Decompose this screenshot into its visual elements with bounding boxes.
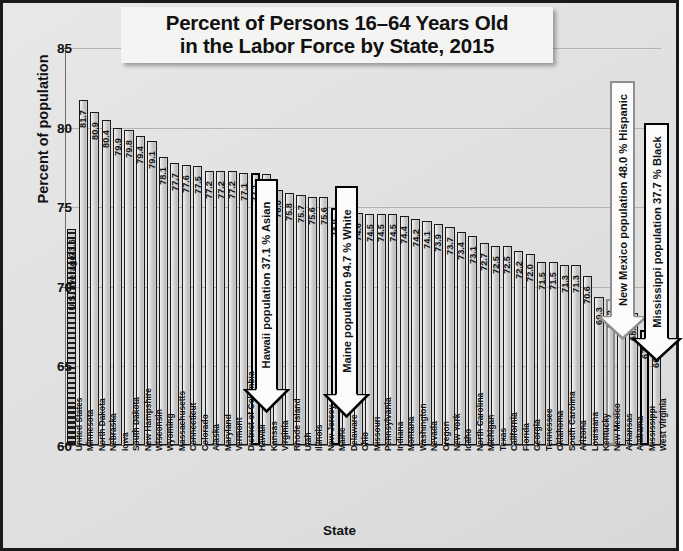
- callout-arrow-head-icon: [631, 338, 682, 362]
- x-label-ohio: Ohio: [360, 432, 370, 451]
- bar-value-label: 73.9: [433, 234, 443, 252]
- bar-montana[interactable]: 74.4: [400, 216, 409, 445]
- x-label-new-york: New York: [452, 414, 462, 451]
- x-label-california: California: [509, 412, 519, 451]
- x-label-pennsylvania: Pennsylvania: [383, 397, 393, 451]
- x-axis-category-labels: United StatesMinnesotaNorth DakotaNebras…: [65, 449, 661, 527]
- bar-rect: 73.7: [445, 227, 454, 445]
- bar-value-label: 80.9: [90, 122, 100, 140]
- x-label-minnesota: Minnesota: [85, 410, 95, 451]
- bar-value-label: 79.9: [113, 138, 123, 156]
- x-label-texas: Texas: [498, 428, 508, 451]
- x-label-utah: Utah: [303, 432, 313, 451]
- bar-nebraska[interactable]: 80.4: [102, 120, 111, 445]
- x-label-south-carolina: South Carolina: [567, 391, 577, 451]
- x-label-massachusetts: Massachusetts: [177, 391, 187, 451]
- x-label-kentucky: Kentucky: [601, 413, 611, 451]
- mississippi-callout: Mississippi population 37.7 % Black: [631, 123, 682, 362]
- bar-value-label: 75.7: [296, 205, 306, 223]
- bar-value-label: 72.2: [514, 261, 524, 279]
- bar-oregon[interactable]: 73.9: [434, 224, 443, 445]
- bar-value-label: 74.4: [399, 226, 409, 244]
- callout-body: Hawaii population 37.1 % Asian: [255, 179, 278, 389]
- callout-text: Maine population 94.7 % White: [340, 209, 352, 372]
- x-label-maryland: Maryland: [223, 414, 233, 451]
- bar-value-label: 73.1: [468, 247, 478, 265]
- bar-value-label: 72.0: [525, 264, 535, 282]
- x-label-illinois: Illinois: [314, 424, 324, 451]
- bar-north-dakota[interactable]: 80.9: [90, 112, 99, 445]
- bar-rect: 72.0: [526, 254, 535, 445]
- bar-value-label: 75.6: [307, 207, 317, 225]
- bar-value-label: 74.5: [388, 224, 398, 242]
- bar-iowa[interactable]: 79.9: [113, 128, 122, 445]
- bar-value-label: 71.3: [560, 275, 570, 293]
- x-label-kansas: Kansas: [269, 421, 279, 451]
- callout-text: Hawaii population 37.1 % Asian: [260, 202, 272, 369]
- bar-value-label: 72.5: [491, 256, 501, 274]
- bar-maryland[interactable]: 77.2: [216, 171, 225, 445]
- callout-arrow-head-icon: [323, 394, 370, 418]
- x-label-iowa: Iowa: [120, 432, 130, 451]
- x-label-mississippi: Mississippi: [647, 406, 657, 451]
- hawaii-callout: Hawaii population 37.1 % Asian: [243, 179, 290, 413]
- x-label-rhode-island: Rhode Island: [292, 398, 302, 451]
- bar-rect: 77.2: [216, 171, 225, 445]
- x-label-colorado: Colorado: [200, 414, 210, 451]
- x-label-delaware: Delaware: [349, 414, 359, 451]
- bar-value-label: 71.3: [571, 275, 581, 293]
- bar-value-label: 80.4: [101, 130, 111, 148]
- bar-georgia[interactable]: 72.0: [526, 254, 535, 445]
- chart-title-line-2: in the Labor Force by State, 2015: [127, 34, 547, 57]
- bar-rect: 80.9: [90, 112, 99, 445]
- bar-value-label: 74.2: [411, 229, 421, 247]
- bar-value-label: 72.7: [479, 253, 489, 271]
- callout-arrow-head-icon: [243, 389, 290, 413]
- x-label-indiana: Indiana: [395, 422, 405, 451]
- y-tick-label: 80: [32, 120, 72, 135]
- x-label-alabama: Alabama: [635, 416, 645, 451]
- x-label-vermont: Vermont: [234, 417, 244, 451]
- x-label-florida: Florida: [521, 423, 531, 451]
- bar-value-label: 77.6: [181, 175, 191, 193]
- callout-body: Mississippi population 37.7 % Black: [644, 123, 669, 338]
- bar-illinois[interactable]: 75.6: [308, 197, 317, 445]
- bar-value-label: 81.7: [78, 110, 88, 128]
- y-tick-label: 75: [32, 200, 72, 215]
- bar-value-label: 73.7: [445, 237, 455, 255]
- x-label-new-hampshire: New Hampshire: [143, 388, 153, 451]
- bar-rect: 74.4: [400, 216, 409, 445]
- x-label-georgia: Georgia: [532, 419, 542, 451]
- x-label-louisiana: Louisiana: [590, 412, 600, 451]
- x-label-michigan: Michigan: [486, 415, 496, 451]
- x-label-montana: Montana: [406, 417, 416, 451]
- bar-new-york[interactable]: 73.7: [445, 227, 454, 445]
- x-label-washington: Washington: [418, 403, 428, 451]
- bar-alaska[interactable]: 77.2: [205, 171, 214, 445]
- bar-vermont[interactable]: 77.2: [228, 171, 237, 445]
- bar-value-label: 77.2: [227, 181, 237, 199]
- bar-rect: 79.9: [113, 128, 122, 445]
- bar-rect: 77.2: [205, 171, 214, 445]
- bar-value-label: 73.6: [67, 239, 77, 257]
- bar-rect: 77.2: [228, 171, 237, 445]
- bar-wyoming[interactable]: 78.1: [159, 157, 168, 445]
- chart-title-line-1: Percent of Persons 16–64 Years Old: [127, 11, 547, 34]
- bar-value-label: 71.5: [537, 272, 547, 290]
- x-label-tennessee: Tennessee: [544, 408, 554, 451]
- x-label-hawaii: Hawaii: [257, 424, 267, 451]
- x-label-missouri: Missouri: [372, 417, 382, 451]
- x-label-new-mexico: New Mexico: [612, 403, 622, 451]
- x-label-arizona: Arizona: [578, 420, 588, 451]
- bar-value-label: 78.1: [158, 167, 168, 185]
- x-label-idaho: Idaho: [463, 429, 473, 451]
- chart-title: Percent of Persons 16–64 Years Old in th…: [121, 7, 553, 63]
- x-label-west-virginia: West Virginia: [658, 398, 668, 451]
- bar-value-label: 72.5: [502, 256, 512, 274]
- bar-minnesota[interactable]: 81.7: [79, 100, 88, 445]
- x-label-virginia: Virginia: [280, 420, 290, 451]
- x-label-nebraska: Nebraska: [108, 413, 118, 451]
- x-label-north-carolina: North Carolina: [475, 393, 485, 451]
- y-tick-label: 70: [32, 279, 72, 294]
